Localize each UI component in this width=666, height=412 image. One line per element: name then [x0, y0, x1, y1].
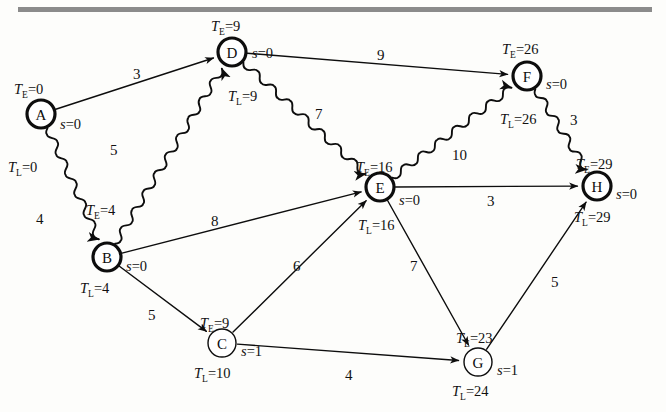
earliest-time-f: TE=26: [502, 42, 539, 60]
latest-time-a: TL=0: [8, 160, 37, 178]
node-g[interactable]: G: [464, 348, 492, 376]
edge-a-b: [46, 128, 99, 239]
node-d[interactable]: D: [218, 38, 246, 66]
edge-weight-e-h: 3: [487, 194, 495, 209]
node-label-b: B: [102, 250, 112, 266]
latest-time-h: TL=29: [574, 210, 611, 228]
edge-weight-b-e: 8: [211, 214, 219, 229]
edge-weight-b-c: 5: [148, 308, 156, 323]
node-label-f: F: [523, 69, 531, 85]
edge-weight-f-h: 3: [570, 113, 578, 128]
node-h[interactable]: H: [583, 172, 611, 200]
edge-e-h: [395, 186, 577, 187]
slack-f: s=0: [546, 77, 567, 92]
earliest-time-h: TE=29: [576, 157, 613, 175]
earliest-time-c: TE=9: [200, 316, 229, 334]
edge-g-h: [487, 202, 586, 349]
node-label-g: G: [473, 355, 484, 371]
node-b[interactable]: B: [93, 243, 121, 271]
latest-time-g: TL=24: [452, 384, 489, 402]
node-label-d: D: [227, 45, 238, 61]
node-label-e: E: [375, 180, 384, 196]
earliest-time-d: TE=9: [211, 19, 240, 37]
edge-weight-g-h: 5: [551, 275, 559, 290]
figure-canvas: ABCDEFGH TE=0TL=0s=0TE=4TL=4s=0TE=9TL=10…: [0, 0, 666, 412]
edge-c-g: [237, 344, 458, 360]
node-a[interactable]: A: [27, 100, 55, 128]
edge-d-e: [243, 62, 365, 174]
edge-layer: [46, 53, 586, 360]
edge-b-e: [122, 192, 361, 253]
edge-weight-c-e: 6: [293, 259, 301, 274]
edge-b-c: [119, 266, 206, 331]
edge-weight-a-d: 3: [133, 67, 141, 82]
slack-c: s=1: [241, 344, 262, 359]
slack-d: s=0: [252, 46, 273, 61]
latest-time-b: TL=4: [80, 281, 109, 299]
slack-b: s=0: [126, 259, 147, 274]
edge-weight-e-g: 7: [410, 259, 418, 274]
latest-time-f: TL=26: [500, 112, 537, 130]
edge-weight-d-e: 7: [315, 107, 323, 122]
earliest-time-b: TE=4: [86, 203, 115, 221]
edge-e-g: [388, 201, 469, 345]
edge-b-d: [115, 69, 223, 244]
earliest-time-a: TE=0: [14, 82, 43, 100]
slack-h: s=0: [616, 187, 637, 202]
edge-weight-a-b: 4: [36, 212, 44, 227]
slack-e: s=0: [399, 193, 420, 208]
earliest-time-g: TE=23: [456, 331, 493, 349]
edge-e-f: [392, 87, 511, 178]
slack-a: s=0: [60, 117, 81, 132]
node-f[interactable]: F: [513, 62, 541, 90]
edge-weight-e-f: 10: [452, 148, 467, 163]
slack-g: s=1: [497, 363, 518, 378]
latest-time-c: TL=10: [194, 366, 231, 384]
node-label-a: A: [36, 107, 47, 123]
earliest-time-e: TE=16: [356, 160, 393, 178]
node-label-h: H: [592, 179, 603, 195]
node-label-c: C: [217, 336, 227, 352]
edge-weight-b-d: 5: [110, 143, 118, 158]
edge-weight-c-g: 4: [345, 368, 353, 383]
latest-time-e: TL=16: [358, 218, 395, 236]
latest-time-d: TL=9: [228, 89, 257, 107]
edge-weight-d-f: 9: [377, 48, 385, 63]
